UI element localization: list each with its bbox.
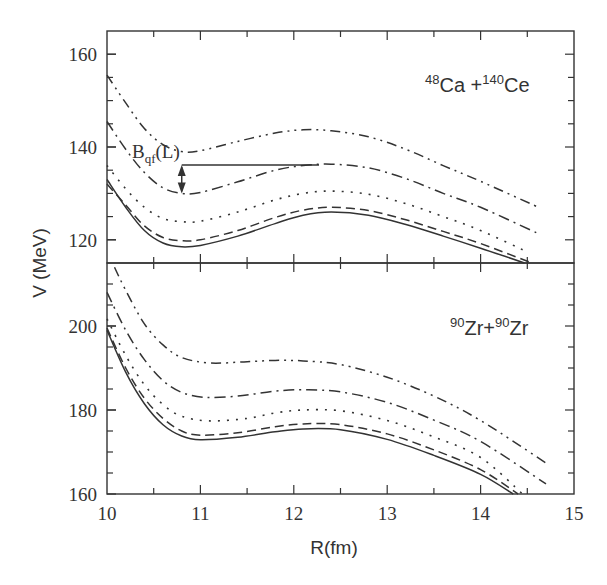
x-axis: 101112131415 [98,503,584,524]
bqf-main: B [132,141,145,162]
bottom-panel: 200180160 90Zr+90Zr [69,263,575,505]
x-tick-label: 15 [565,503,584,524]
bottom-panel-ticks: 200180160 [69,263,575,505]
top-panel-curves [107,75,539,263]
y-tick-label: 160 [69,484,98,505]
potential-chart: 160140120 48Ca +140Ce Bqf(L) 200180160 9… [0,0,607,585]
x-axis-title: R(fm) [310,537,357,558]
y-tick-label: 140 [69,137,98,158]
y-tick-label: 160 [69,44,98,65]
label-element-1: Zr [464,317,483,339]
x-tick-label: 13 [378,503,397,524]
label-element-2: Ce [504,74,530,96]
label-mass-1: 90 [450,315,464,330]
series-dashed-curve [107,184,532,263]
y-tick-label: 200 [69,316,98,337]
label-mass-2: 140 [482,72,504,87]
label-element-1: Ca [439,74,465,96]
label-mass-1: 48 [425,72,439,87]
bqf-tail: (L) [156,141,180,163]
y-tick-label: 180 [69,400,98,421]
bqf-label: Bqf(L) [132,141,180,166]
x-tick-label: 10 [98,503,117,524]
series-dotted-curve [107,319,523,494]
arrow-down-icon [178,182,186,193]
label-plus: + [483,317,495,339]
bqf-subscript: qf [145,151,157,166]
top-panel-label: 48Ca +140Ce [425,72,530,96]
x-tick-label: 12 [284,503,303,524]
bottom-panel-label: 90Zr+90Zr [450,315,529,339]
y-tick-label: 120 [69,230,98,251]
y-axis-title: V (MeV) [29,228,50,298]
bottom-panel-curves [107,267,548,494]
top-panel: 160140120 48Ca +140Ce Bqf(L) [69,31,575,263]
x-tick-label: 14 [471,503,491,524]
label-plus: + [465,74,482,96]
label-element-2: Zr [510,317,529,339]
label-mass-2: 90 [495,315,509,330]
bqf-annotation: Bqf(L) [132,141,319,193]
x-tick-label: 11 [191,503,209,524]
series-dashed-curve [107,328,518,494]
series-solid-curve [107,330,513,494]
bottom-panel-frame [107,263,574,494]
arrow-up-icon [178,165,186,176]
